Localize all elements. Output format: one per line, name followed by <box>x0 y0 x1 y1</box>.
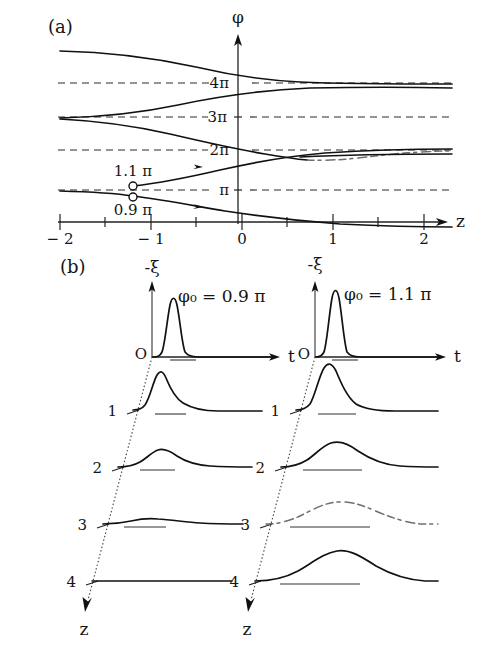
panel-a: (a) φ 4π 3π 2π π z − 2 <box>47 7 465 249</box>
right-z-axis-label: z <box>243 619 252 639</box>
left-trace-z26 <box>103 519 243 524</box>
xtick-label-2: 2 <box>419 230 429 248</box>
right-ztick-label-3: 3 <box>240 516 250 534</box>
right-origin-label: O <box>298 345 310 363</box>
left-ztick-label-1: 1 <box>107 402 117 420</box>
left-trace-z16 <box>118 449 252 467</box>
right-trace-z16 <box>281 442 438 467</box>
left-t-axis-label: t <box>288 346 295 366</box>
curve-lower-branch-to-4pi <box>60 87 452 118</box>
right-condition-label: φ₀ = 1.1 π <box>344 284 431 304</box>
right-t-axis-label: t <box>454 346 461 366</box>
ytick-label-3pi: 3π <box>208 108 228 126</box>
panel-b: (b) -ξ t O φ₀ = 0.9 π z 1 2 3 <box>60 254 461 639</box>
ytick-label-pi: π <box>219 181 229 199</box>
left-ztick-label-3: 3 <box>77 516 87 534</box>
right-xi-axis-label: -ξ <box>307 254 322 274</box>
xtick-label--1: − 1 <box>138 230 165 248</box>
curve-upper-branch-to-4pi <box>60 51 452 84</box>
right-trace-z06 <box>296 364 438 411</box>
right-ztick-label-2: 2 <box>255 459 265 477</box>
branch-arrow-upper-icon <box>193 165 203 170</box>
curve-descending-to-2pi <box>60 119 307 160</box>
xtick-label-0: 0 <box>237 230 247 248</box>
left-ztick-label-4: 4 <box>66 573 76 591</box>
right-ztick-label-4: 4 <box>229 573 239 591</box>
left-z-axis-label: z <box>80 619 89 639</box>
panel-b-tag: (b) <box>60 256 86 277</box>
left-trace-z0 <box>153 298 272 357</box>
right-ztick-label-1: 1 <box>270 402 280 420</box>
left-z-axis-arrow-icon <box>83 597 93 612</box>
xtick-label--2: − 2 <box>47 230 74 248</box>
phi-axis-label: φ <box>232 7 244 27</box>
marker-phi0-0p9pi[interactable] <box>129 193 137 201</box>
right-z-axis-line <box>251 357 315 600</box>
left-origin-label: O <box>135 345 147 363</box>
marker-phi0-1p1pi[interactable] <box>129 182 137 190</box>
right-trace-z4 <box>255 551 438 581</box>
branch-arrow-lower-icon <box>193 204 203 209</box>
ytick-label-4pi: 4π <box>210 74 230 92</box>
panel-a-tag: (a) <box>48 16 73 37</box>
z-axis-label: z <box>456 211 465 231</box>
annotation-0p9pi: 0.9 π <box>114 201 153 219</box>
left-xi-axis-label: -ξ <box>144 257 159 277</box>
right-trace-z26 <box>266 502 438 524</box>
annotation-1p1pi: 1.1 π <box>114 162 153 180</box>
left-trace-z06 <box>133 372 262 411</box>
left-z-axis-line <box>88 357 152 600</box>
xtick-label-1: 1 <box>328 230 338 248</box>
left-condition-label: φ₀ = 0.9 π <box>178 286 265 306</box>
figure-container: (a) φ 4π 3π 2π π z − 2 <box>0 0 479 646</box>
right-z-axis-arrow-icon <box>246 597 256 612</box>
left-ztick-label-2: 2 <box>92 459 102 477</box>
panel-b-right-subplot: -ξ t O φ₀ = 1.1 π z 1 2 3 4 <box>229 254 461 639</box>
figure-svg: (a) φ 4π 3π 2π π z − 2 <box>0 0 479 646</box>
